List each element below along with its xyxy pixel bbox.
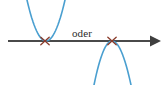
parabola-opens-up [27,0,65,41]
parabola-opens-down [94,41,131,85]
axis-arrowhead-icon [150,36,161,47]
connector-label-oder: oder [72,28,92,39]
figure-canvas [0,0,165,85]
parabola-tangent-figure: oder [0,0,165,85]
